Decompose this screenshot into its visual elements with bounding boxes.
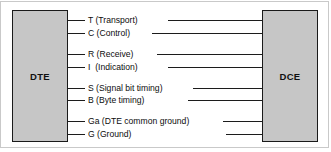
signal-line-right-segment — [152, 33, 262, 34]
signal-line-left-segment — [68, 88, 85, 89]
signal-label: Ga (DTE common ground) — [88, 117, 189, 126]
signal-line-right-segment — [223, 121, 262, 122]
signal-line-left-segment — [68, 100, 85, 101]
signal-label: G (Ground) — [88, 130, 131, 139]
signal-label: T (Transport) — [88, 16, 138, 25]
signal-line-right-segment — [168, 20, 262, 21]
dte-dce-signal-diagram: DTE DCE T (Transport)C (Control)R (Recei… — [0, 0, 331, 152]
dce-node-box: DCE — [262, 10, 318, 142]
dte-node-label: DTE — [30, 71, 50, 82]
signal-line-right-segment — [168, 67, 262, 68]
signal-line-left-segment — [68, 33, 85, 34]
signal-line-right-segment — [157, 54, 262, 55]
signal-line-right-segment — [188, 100, 262, 101]
signal-label: B (Byte timing) — [88, 96, 144, 105]
signal-label: R (Receive) — [88, 50, 133, 59]
signal-line-right-segment — [193, 88, 262, 89]
signal-line-left-segment — [68, 20, 85, 21]
signal-line-right-segment — [226, 134, 262, 135]
signal-label: I (Indication) — [88, 63, 138, 72]
dte-node-box: DTE — [12, 10, 68, 142]
signal-line-left-segment — [68, 67, 85, 68]
dce-node-label: DCE — [280, 71, 301, 82]
signal-label: C (Control) — [88, 29, 130, 38]
signal-label: S (Signal bit timing) — [88, 84, 163, 93]
signal-line-left-segment — [68, 121, 85, 122]
signal-line-left-segment — [68, 54, 85, 55]
signal-line-left-segment — [68, 134, 85, 135]
